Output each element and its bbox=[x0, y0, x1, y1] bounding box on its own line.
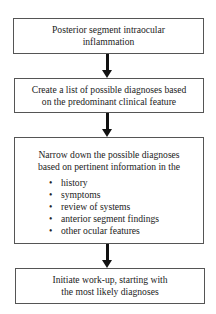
list-item: •other ocular features bbox=[15, 225, 203, 237]
list-item: •review of systems bbox=[15, 201, 203, 213]
step-2-line-1: Create a list of possible diagnoses base… bbox=[15, 84, 203, 96]
list-item-text: history bbox=[61, 177, 88, 188]
arrow-shaft bbox=[106, 244, 109, 261]
step-1-line-2: inflammation bbox=[14, 36, 203, 48]
arrow-shaft bbox=[106, 54, 109, 71]
list-item-text: review of systems bbox=[61, 201, 130, 212]
bullet-icon: • bbox=[49, 177, 52, 189]
step-1-line-1: Posterior segment intraocular bbox=[14, 24, 203, 36]
step-3-line-1: Narrow down the possible diagnoses bbox=[15, 149, 203, 161]
list-item-text: anterior segment findings bbox=[61, 213, 159, 224]
arrow-shaft bbox=[106, 113, 109, 130]
arrow-down-icon bbox=[102, 244, 112, 268]
arrow-head bbox=[102, 129, 112, 137]
step-1-box: Posterior segment intraocular inflammati… bbox=[13, 18, 204, 54]
arrow-down-icon bbox=[102, 54, 112, 78]
bullet-icon: • bbox=[49, 225, 52, 237]
bullet-icon: • bbox=[49, 213, 52, 225]
step-4-box: Initiate work-up, starting with the most… bbox=[15, 268, 205, 304]
arrow-down-icon bbox=[102, 113, 112, 137]
step-3-box: Narrow down the possible diagnoses based… bbox=[14, 137, 204, 244]
arrow-head bbox=[102, 70, 112, 78]
step-2-line-2: on the predominant clinical feature bbox=[15, 96, 203, 108]
list-item-text: symptoms bbox=[61, 189, 100, 200]
bullet-icon: • bbox=[49, 189, 52, 201]
list-item-text: other ocular features bbox=[61, 225, 140, 236]
list-item: •history bbox=[15, 177, 203, 189]
list-item: •symptoms bbox=[15, 189, 203, 201]
step-4-line-2: the most likely diagnoses bbox=[16, 286, 204, 298]
bullet-icon: • bbox=[49, 201, 52, 213]
criteria-list: •history •symptoms •review of systems •a… bbox=[15, 177, 203, 237]
list-item: •anterior segment findings bbox=[15, 213, 203, 225]
arrow-head bbox=[102, 260, 112, 268]
step-4-line-1: Initiate work-up, starting with bbox=[16, 274, 204, 286]
step-2-box: Create a list of possible diagnoses base… bbox=[14, 78, 204, 113]
step-3-line-2: based on pertinent information in the bbox=[15, 161, 203, 173]
